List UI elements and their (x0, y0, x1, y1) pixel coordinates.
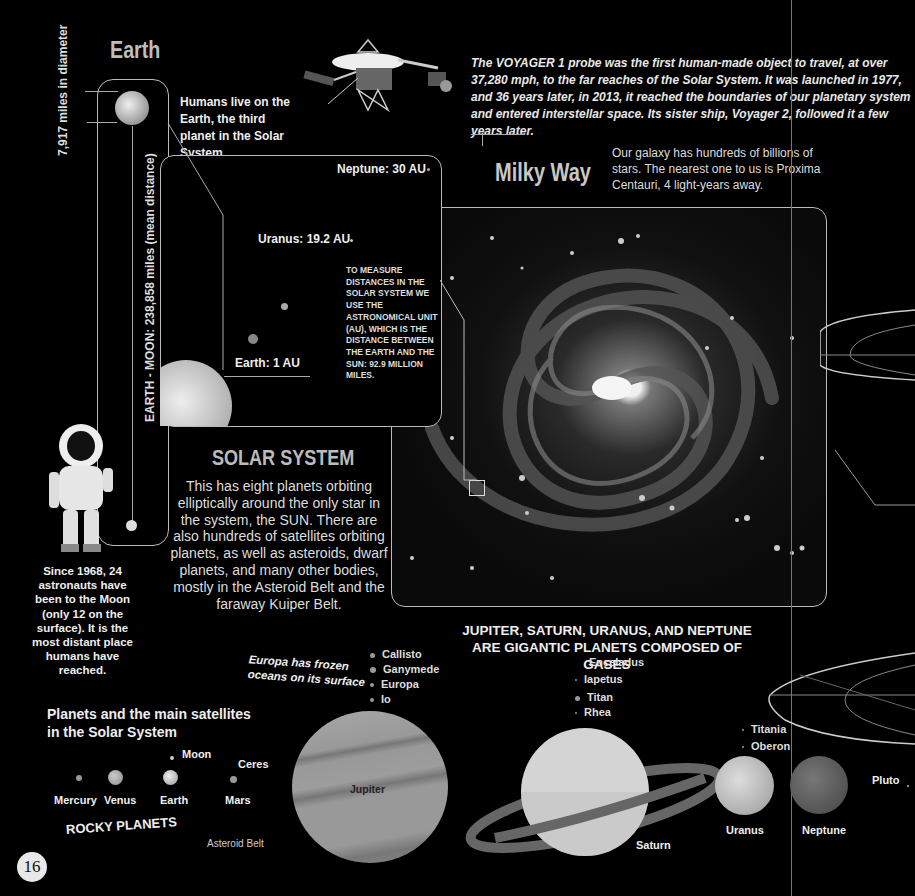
oberon-dot-icon (742, 746, 744, 748)
galaxy-pointer-line (440, 280, 480, 490)
ceres-label: Ceres (238, 758, 269, 770)
planets-section-title: Planets and the main satellites in the S… (47, 705, 257, 741)
voyager-pointer-line-2 (482, 134, 483, 146)
rhea-dot-icon (575, 712, 577, 714)
neptune-dot-icon (427, 168, 430, 171)
neptune-label: Neptune (802, 824, 846, 836)
earth-small-icon (163, 770, 178, 785)
moon-small-icon (170, 756, 174, 760)
neptune-distance-label: Neptune: 30 AU (337, 162, 426, 176)
titan-dot-icon (575, 696, 580, 701)
moon-icon (126, 520, 137, 531)
moon-europa: Europa (370, 678, 419, 690)
mars-icon (230, 776, 237, 783)
saturn-icon (455, 728, 720, 858)
earth-title: Earth (110, 36, 160, 64)
titania-dot-icon (742, 729, 744, 731)
mercury-label: Mercury (54, 794, 97, 806)
moon-titan: Titan (575, 691, 613, 703)
earth-label: Earth (160, 794, 188, 806)
moon-ganymede: Ganymede (370, 663, 439, 675)
earth-moon-line (132, 126, 133, 521)
uranus-label: Uranus (726, 824, 764, 836)
ganymede-dot-icon (370, 667, 376, 673)
orbit-diagram-top (820, 305, 915, 395)
voyager-probe-icon (298, 38, 458, 118)
earth-moon-distance-label: EARTH - MOON: 238,858 miles (mean distan… (143, 186, 157, 422)
asteroid-belt-label: Asteroid Belt (207, 838, 264, 849)
uranus-distance-label: Uranus: 19.2 AU (258, 232, 350, 246)
rocky-planets-label: ROCKY PLANETS (65, 814, 177, 837)
uranus-dot-icon (350, 239, 353, 242)
neptune-icon (790, 756, 848, 814)
callisto-dot-icon (370, 653, 375, 658)
earth-distance-label: Earth: 1 AU (235, 356, 300, 370)
astronaut-text: Since 1968, 24 astronauts have been to t… (30, 564, 135, 678)
venus-label: Venus (104, 794, 136, 806)
moon-rhea: Rhea (575, 706, 611, 718)
europa-note: Europa has frozen oceans on its surface (247, 652, 389, 692)
moon-iapetus: Iapetus (575, 673, 623, 685)
uranus-icon (715, 756, 774, 815)
moon-enceladus: Enceladus (589, 656, 644, 668)
saturn-label: Saturn (636, 839, 671, 851)
moon-label: Moon (182, 748, 211, 760)
orbit-diagram-bottom (765, 650, 915, 770)
mercury-icon (76, 775, 82, 781)
astronaut-icon (45, 422, 117, 554)
earth-globe-icon (115, 91, 149, 125)
venus-icon (108, 770, 123, 785)
moon-oberon: Oberon (742, 740, 790, 752)
moon-titania: Titania (742, 723, 786, 735)
pluto-label: Pluto (872, 774, 900, 786)
voyager-pointer-line (471, 134, 525, 135)
pluto-dot-icon (907, 785, 909, 787)
au-explanation: TO MEASURE DISTANCES IN THE SOLAR SYSTEM… (346, 265, 446, 382)
earth-au-baseline (224, 376, 310, 377)
page-number: 16 (17, 852, 47, 882)
moon-io: Io (370, 693, 391, 705)
mars-label: Mars (225, 794, 251, 806)
saturn-dot-icon (281, 303, 288, 310)
earth-diameter-label: 7,917 miles in diameter (56, 62, 70, 156)
pointer-line-right (835, 450, 915, 510)
jupiter-dot-icon (248, 334, 258, 344)
solar-system-title: SOLAR SYSTEM (212, 445, 354, 471)
solar-system-text: This has eight planets orbiting elliptic… (170, 478, 388, 612)
jupiter-label: Jupiter (350, 783, 385, 795)
iapetus-dot-icon (575, 679, 577, 681)
voyager-text: The VOYAGER 1 probe was the first human-… (471, 55, 911, 140)
io-dot-icon (370, 698, 374, 702)
europa-dot-icon (370, 683, 374, 687)
milky-way-title: Milky Way (495, 158, 591, 187)
moon-callisto: Callisto (370, 648, 422, 660)
